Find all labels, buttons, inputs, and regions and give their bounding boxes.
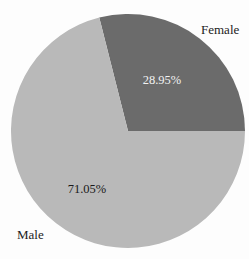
pie-chart-figure: Female Male 28.95% 71.05% (0, 0, 249, 259)
pct-label-male: 71.05% (68, 182, 107, 197)
slice-label-female: Female (201, 22, 239, 38)
pct-label-female: 28.95% (143, 73, 182, 88)
slice-label-male: Male (17, 227, 44, 243)
pie-chart (0, 0, 249, 259)
